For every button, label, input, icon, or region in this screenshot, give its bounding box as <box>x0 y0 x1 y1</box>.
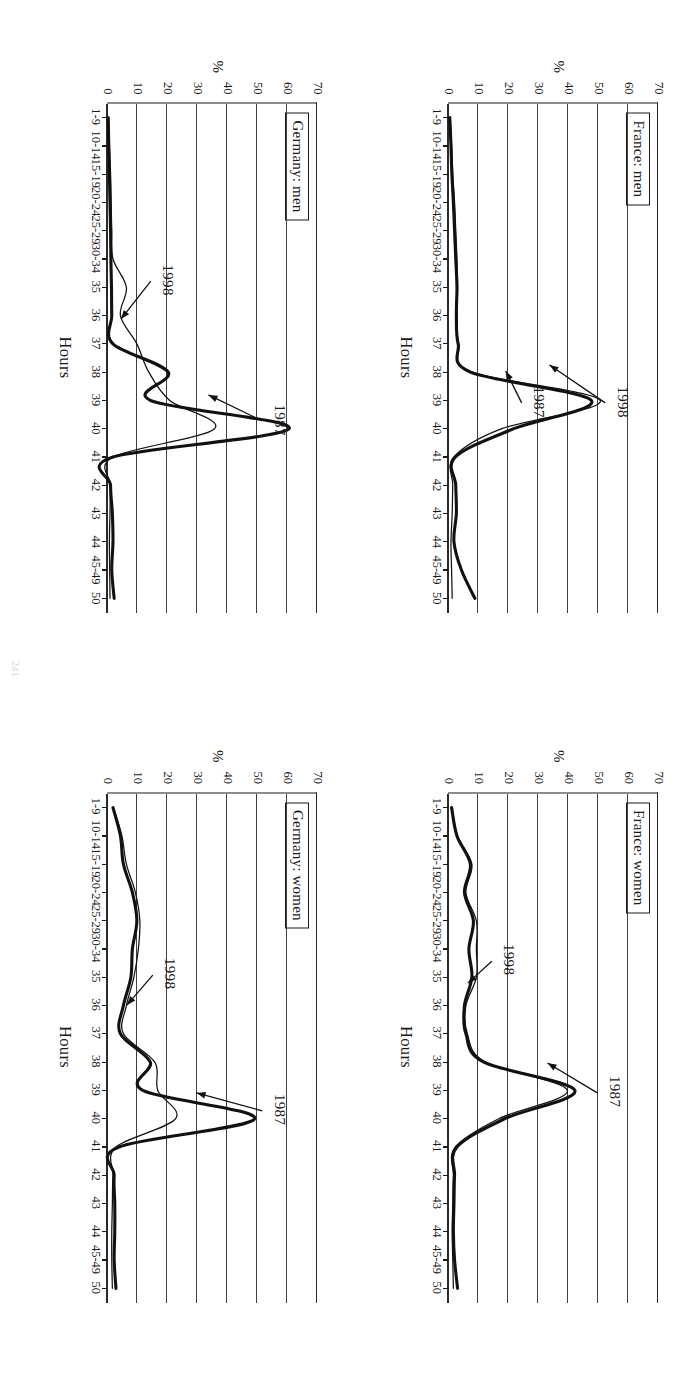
series-line-1998 <box>450 117 600 598</box>
x-tick-label: 35 <box>429 280 444 293</box>
x-tick-label: 35 <box>429 969 444 982</box>
x-tick-label: 38 <box>429 1054 444 1067</box>
y-tick-label: 60 <box>280 736 295 784</box>
x-tick-label: 44 <box>88 535 103 548</box>
y-tick-label: 0 <box>100 46 115 94</box>
x-tick-label: 40 <box>88 1111 103 1124</box>
y-tick-label: 40 <box>220 46 235 94</box>
x-tick-label: 30-34 <box>88 933 103 962</box>
series-annotation-1998: 1998 <box>161 958 178 989</box>
series-annotation-1987: 1987 <box>606 1076 623 1107</box>
x-tick-label: 40 <box>429 1111 444 1124</box>
series-annotation-1987: 1987 <box>530 386 547 417</box>
x-tick-label: 43 <box>429 507 444 520</box>
x-tick-label: 1-9 <box>429 797 444 814</box>
x-tick-label: 10-14 <box>88 819 103 848</box>
series-line-1987 <box>107 807 255 1288</box>
y-tick-label: 30 <box>531 46 546 94</box>
y-tick-label: 40 <box>220 736 235 784</box>
plot-area-germany-women <box>107 792 317 1302</box>
x-tick-label: 20-24 <box>429 876 444 905</box>
panel-france-women: France: women % Hours 0102030405060701-9… <box>341 690 682 1379</box>
x-tick-label: 37 <box>429 1026 444 1039</box>
x-tick-label: 20-24 <box>429 187 444 216</box>
y-tick-label: 70 <box>310 736 325 784</box>
x-tick-label: 1-9 <box>88 797 103 814</box>
x-tick-label: 36 <box>88 998 103 1011</box>
x-tick-label: 36 <box>88 308 103 321</box>
x-axis-label-germany-men: Hours <box>55 336 75 378</box>
x-tick-label: 50 <box>429 592 444 605</box>
x-tick-label: 1-9 <box>429 108 444 125</box>
y-tick-label: 10 <box>130 736 145 784</box>
x-tick-label: 40 <box>429 422 444 435</box>
x-tick-label: 41 <box>88 1139 103 1152</box>
y-tick-label: 60 <box>621 736 636 784</box>
y-tick-label: 10 <box>471 736 486 784</box>
x-tick-label: 43 <box>429 1196 444 1209</box>
plot-area-france-men <box>448 102 658 612</box>
x-axis-label-france-men: Hours <box>396 336 416 378</box>
page-number: 241 <box>10 660 22 677</box>
y-tick-label: 30 <box>531 736 546 784</box>
x-tick-label: 50 <box>88 592 103 605</box>
x-tick-label: 45-49 <box>429 555 444 584</box>
plot-svg-germany-women <box>107 793 316 1302</box>
x-tick-label: 15-19 <box>88 158 103 187</box>
x-tick-label: 38 <box>88 1054 103 1067</box>
y-tick-label: 60 <box>621 46 636 94</box>
x-tick-label: 42 <box>429 1168 444 1181</box>
x-tick-label: 10-14 <box>429 130 444 159</box>
x-tick-label: 39 <box>88 393 103 406</box>
y-tick-label: 20 <box>160 46 175 94</box>
series-line-1987 <box>452 807 575 1288</box>
x-tick-label: 41 <box>88 450 103 463</box>
x-tick-label: 36 <box>429 308 444 321</box>
x-tick-label: 37 <box>88 1026 103 1039</box>
plot-svg-germany-men <box>107 103 316 612</box>
x-tick-label: 44 <box>88 1224 103 1237</box>
y-tick-label: 40 <box>561 46 576 94</box>
x-tick-label: 20-24 <box>88 876 103 905</box>
x-tick-label: 41 <box>429 1139 444 1152</box>
x-tick-label: 10-14 <box>88 130 103 159</box>
x-tick-label: 39 <box>429 1083 444 1096</box>
x-tick-label: 25-29 <box>88 215 103 244</box>
plot-svg-france-women <box>448 793 657 1302</box>
x-tick-label: 50 <box>429 1281 444 1294</box>
x-tick-label: 30-34 <box>429 243 444 272</box>
x-tick-label: 30-34 <box>429 933 444 962</box>
y-tick-label: 40 <box>561 736 576 784</box>
y-tick-label: 0 <box>441 736 456 784</box>
y-tick-label: 50 <box>591 736 606 784</box>
series-line-1998 <box>105 117 216 598</box>
y-tick-label: 60 <box>280 46 295 94</box>
x-tick-label: 35 <box>88 280 103 293</box>
x-tick-label: 45-49 <box>429 1244 444 1273</box>
x-tick-label: 38 <box>429 365 444 378</box>
x-tick-label: 38 <box>88 365 103 378</box>
y-tick-label: 30 <box>190 46 205 94</box>
y-tick-label: 20 <box>160 736 175 784</box>
x-axis-label-france-women: Hours <box>396 1026 416 1068</box>
x-tick-label: 25-29 <box>88 904 103 933</box>
y-tick-label: 70 <box>651 736 666 784</box>
x-tick-label: 45-49 <box>88 1244 103 1273</box>
series-annotation-1998: 1998 <box>614 386 631 417</box>
x-tick-label: 25-29 <box>429 904 444 933</box>
panel-france-men: France: men % Hours 0102030405060701-910… <box>341 0 682 690</box>
y-tick-label: 70 <box>651 46 666 94</box>
x-tick-label: 15-19 <box>429 848 444 877</box>
panel-germany-men: Germany: men % Hours 0102030405060701-91… <box>0 0 341 690</box>
x-tick-label: 43 <box>88 1196 103 1209</box>
y-tick-label: 0 <box>100 736 115 784</box>
plot-area-germany-men <box>107 102 317 612</box>
x-tick-label: 15-19 <box>88 848 103 877</box>
series-annotation-1987: 1987 <box>271 404 288 435</box>
series-annotation-1998: 1998 <box>500 944 517 975</box>
y-tick-label: 20 <box>501 736 516 784</box>
x-tick-label: 43 <box>88 507 103 520</box>
x-tick-label: 50 <box>88 1281 103 1294</box>
y-tick-label: 50 <box>250 736 265 784</box>
panel-germany-women: Germany: women % Hours 0102030405060701-… <box>0 690 341 1379</box>
